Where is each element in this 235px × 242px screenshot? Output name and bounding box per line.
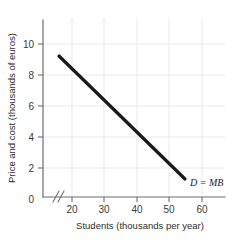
y-tick-label-10: 10	[23, 39, 35, 50]
gridlines	[43, 18, 225, 197]
x-axis-tick-labels: 20 30 40 50 60	[66, 204, 208, 215]
x-axis-ticks	[72, 197, 202, 202]
y-tick-label-2: 2	[28, 163, 34, 174]
demand-curve-label: D = MB	[189, 177, 223, 188]
x-tick-label-20: 20	[66, 204, 78, 215]
y-tick-label-8: 8	[28, 70, 34, 81]
y-axis-tick-labels: 10 8 6 4 2 0	[23, 39, 35, 205]
y-axis-title: Price and cost (thousands of euros)	[6, 33, 17, 183]
x-tick-label-50: 50	[163, 204, 175, 215]
y-tick-label-0: 0	[28, 194, 34, 205]
y-tick-label-4: 4	[28, 132, 34, 143]
y-tick-label-6: 6	[28, 101, 34, 112]
chart-canvas: 10 8 6 4 2 0 20 30 40 50 60 D = MB Stude…	[0, 0, 235, 242]
x-tick-label-30: 30	[98, 204, 110, 215]
x-tick-label-60: 60	[196, 204, 208, 215]
y-axis-ticks	[38, 44, 43, 168]
demand-curve-figure: 10 8 6 4 2 0 20 30 40 50 60 D = MB Stude…	[0, 0, 235, 242]
axis-lines	[43, 20, 225, 197]
x-tick-label-40: 40	[131, 204, 143, 215]
demand-curve-group	[59, 56, 185, 179]
demand-curve-line	[59, 56, 185, 179]
x-axis-title: Students (thousands per year)	[76, 220, 204, 231]
